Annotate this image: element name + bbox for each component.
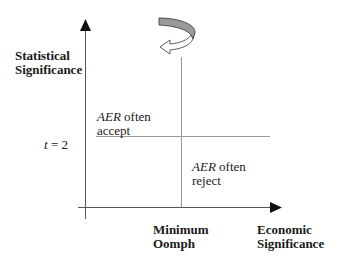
y-axis-label-line1: Statistical (15, 49, 82, 63)
x-axis-label: Economic Significance (257, 223, 324, 251)
y-axis-label-line2: Significance (15, 63, 82, 77)
threshold-label: t = 2 (44, 138, 68, 152)
aer-text: AER (192, 159, 216, 174)
region-accept-label: AER often accept (97, 110, 151, 138)
minimum-oomph-line1: Minimum (153, 223, 209, 237)
accept-text: accept (97, 124, 151, 138)
minimum-oomph-line2: Oomph (153, 237, 209, 251)
aer-text: AER (97, 109, 121, 124)
x-axis-arrowhead-icon (270, 202, 282, 213)
x-axis-label-line2: Significance (257, 237, 324, 251)
t-variable: t (44, 137, 48, 152)
x-axis-label-line1: Economic (257, 223, 324, 237)
threshold-value: = 2 (51, 137, 68, 152)
curved-rotate-arrow-icon (159, 18, 195, 54)
region-reject-label: AER often reject (192, 160, 246, 188)
minimum-oomph-label: Minimum Oomph (153, 223, 209, 251)
y-axis-label: Statistical Significance (15, 49, 82, 77)
reject-text: reject (192, 174, 246, 188)
often-text: often (121, 109, 151, 124)
y-axis-arrowhead-icon (80, 19, 91, 31)
often-text: often (216, 159, 246, 174)
